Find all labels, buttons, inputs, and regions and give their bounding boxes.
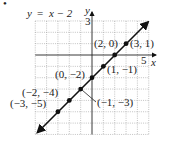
problem-bullet: • [3, 0, 7, 9]
point-label-0-neg2: (0, −2) [55, 68, 85, 81]
equation-equals: = [37, 7, 43, 19]
point-2-0 [112, 53, 117, 58]
point-3-1 [124, 41, 129, 46]
x-tick-label: 5 [141, 54, 147, 66]
point-label-3-1: (3, 1) [130, 37, 154, 50]
equation-lhs: y [26, 7, 32, 19]
x-axis-label: x [150, 56, 156, 68]
equation-rhs: x − 2 [48, 7, 73, 19]
point-1-neg1 [101, 64, 106, 69]
equation-label: y = x − 2 [26, 7, 73, 19]
point-0-neg2 [90, 75, 95, 80]
coordinate-graph: • x 5 y 3 y = x − 2 [0, 0, 170, 146]
point-label-neg1-neg3: (−1, −3) [97, 96, 134, 109]
point-labels: (3, 1) (2, 0) (1, −1) (0, −2) (−1, −3) (… [10, 37, 154, 110]
point-label-neg3-neg5: (−3, −5) [10, 97, 47, 110]
point-neg2-neg4 [67, 98, 72, 103]
y-tick-label: 3 [85, 15, 91, 27]
point-label-2-0: (2, 0) [94, 37, 118, 50]
point-label-1-neg1: (1, −1) [107, 63, 137, 76]
point-neg3-neg5 [56, 109, 61, 114]
